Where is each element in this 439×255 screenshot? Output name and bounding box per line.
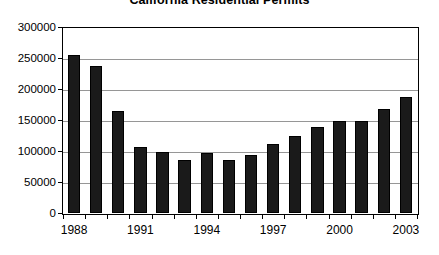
y-axis-tick-mark bbox=[58, 151, 62, 152]
x-axis-tick-mark bbox=[218, 214, 219, 219]
bar bbox=[112, 111, 124, 213]
bar bbox=[400, 97, 412, 213]
x-axis-ticks bbox=[63, 214, 417, 220]
x-axis-tick-mark bbox=[63, 214, 64, 219]
x-axis-tick-label: 2003 bbox=[383, 222, 429, 238]
bar bbox=[223, 160, 235, 213]
bar bbox=[333, 121, 345, 213]
bar bbox=[178, 160, 190, 213]
x-axis-tick-mark bbox=[417, 214, 418, 219]
x-axis: 198819911994199720002003 bbox=[0, 222, 439, 240]
bar bbox=[267, 144, 279, 213]
y-axis-tick-label: 0 bbox=[0, 206, 56, 220]
y-axis-tick-label: 200000 bbox=[0, 82, 56, 96]
x-axis-tick-label: 1997 bbox=[250, 222, 296, 238]
bar bbox=[90, 66, 102, 213]
bar bbox=[311, 127, 323, 213]
x-axis-tick-mark bbox=[107, 214, 108, 219]
y-axis-tick-label: 300000 bbox=[0, 20, 56, 34]
x-axis-tick-label: 2000 bbox=[317, 222, 363, 238]
x-axis-tick-mark bbox=[329, 214, 330, 219]
x-axis-tick-mark bbox=[129, 214, 130, 219]
bar bbox=[156, 152, 168, 213]
bar bbox=[201, 153, 213, 213]
x-axis-tick-mark bbox=[152, 214, 153, 219]
x-axis-tick-mark bbox=[395, 214, 396, 219]
x-axis-tick-label: 1988 bbox=[51, 222, 97, 238]
bar bbox=[68, 55, 80, 213]
y-axis-tick-mark bbox=[58, 120, 62, 121]
y-axis-tick-mark bbox=[58, 89, 62, 90]
y-axis: 050000100000150000200000250000300000 bbox=[0, 0, 57, 255]
x-axis-tick-mark bbox=[262, 214, 263, 219]
y-axis-tick-mark bbox=[58, 27, 62, 28]
y-axis-tick-mark bbox=[58, 182, 62, 183]
x-axis-tick-mark bbox=[306, 214, 307, 219]
x-axis-tick-mark bbox=[240, 214, 241, 219]
bar bbox=[134, 147, 146, 213]
x-axis-tick-mark bbox=[174, 214, 175, 219]
bar-chart: California Residential Permits 050000100… bbox=[0, 0, 439, 255]
y-axis-tick-label: 100000 bbox=[0, 144, 56, 158]
chart-title: California Residential Permits bbox=[0, 0, 439, 8]
x-axis-tick-mark bbox=[351, 214, 352, 219]
x-axis-tick-label: 1994 bbox=[184, 222, 230, 238]
x-axis-tick-mark bbox=[373, 214, 374, 219]
y-axis-tick-label: 150000 bbox=[0, 113, 56, 127]
x-axis-tick-mark bbox=[284, 214, 285, 219]
y-axis-tick-mark bbox=[58, 213, 62, 214]
bar bbox=[355, 121, 367, 213]
y-axis-tick-mark bbox=[58, 58, 62, 59]
y-axis-tick-label: 250000 bbox=[0, 51, 56, 65]
y-axis-tick-label: 50000 bbox=[0, 175, 56, 189]
bar bbox=[245, 155, 257, 213]
x-axis-tick-label: 1991 bbox=[117, 222, 163, 238]
bar bbox=[289, 136, 301, 213]
x-axis-tick-mark bbox=[196, 214, 197, 219]
x-axis-tick-mark bbox=[85, 214, 86, 219]
bar bbox=[378, 109, 390, 213]
bar-series bbox=[63, 27, 417, 213]
